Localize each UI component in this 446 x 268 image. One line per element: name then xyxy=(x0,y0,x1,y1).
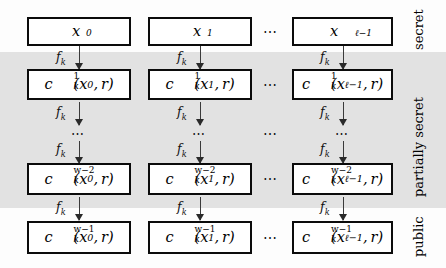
arrow-col-2-top-to-c1 xyxy=(343,46,344,69)
arrow-label-col-2-top-to-c1: fk xyxy=(320,51,330,64)
box-row-cw2-col-0: cw−2kw−2 (x0, r) xyxy=(27,163,131,195)
side-label-partially-secret: partially secret xyxy=(412,97,425,197)
arrow-label-col-0-top-to-c1: fk xyxy=(56,51,66,64)
column-ellipsis-row-cw1: ⋯ xyxy=(263,231,278,245)
box-row-c1-col-0: c1kw−2 (x0, r) xyxy=(27,69,131,100)
arrow-label-col-1-top-to-c1: fk xyxy=(177,51,187,64)
box-row-cw1-col-1: cw−1kw−1 (x1, r) xyxy=(148,221,252,254)
box-row-cw2-col-2: cw−2kw−2 (xℓ−1, r) xyxy=(292,163,393,195)
vertical-ellipsis-col-0: ⋯ xyxy=(71,127,85,140)
formula-x-l-1: xℓ−1ℓ−1 xyxy=(330,24,355,39)
arrow-col-2-c1-to-dots xyxy=(343,102,344,125)
side-label-secret: secret xyxy=(412,9,425,50)
column-ellipsis-row-dots: ⋯ xyxy=(263,127,278,141)
formula-ckw1-xl1: cw−1kw−1 xyxy=(302,230,331,245)
arrow-label-col-2-dots-to-cw2: fk xyxy=(320,143,330,156)
arrow-col-1-top-to-c1 xyxy=(200,46,201,69)
arrow-label-col-1-cw2-to-cw1: fk xyxy=(177,201,187,214)
box-row-top-col-0: x00 xyxy=(27,17,131,46)
column-ellipsis-row-c1: ⋯ xyxy=(263,78,278,92)
arrow-col-2-cw2-to-cw1 xyxy=(343,197,344,220)
column-ellipsis-row-top: ⋯ xyxy=(263,25,278,39)
side-label-public: public xyxy=(412,216,425,257)
arrow-label-col-0-cw2-to-cw1: fk xyxy=(56,201,66,214)
arrow-col-0-cw2-to-cw1 xyxy=(79,197,80,220)
box-row-cw1-col-0: cw−1kw−1 (x0, r) xyxy=(27,221,131,254)
box-row-cw2-col-1: cw−2kw−2 (x1, r) xyxy=(148,163,252,195)
formula-ckw2-xl1: cw−2kw−2 xyxy=(302,172,331,187)
arrow-col-1-c1-to-dots xyxy=(200,102,201,125)
arrow-label-col-0-dots-to-cw2: fk xyxy=(56,143,66,156)
figure-canvas: x00 x11 ⋯ xℓ−1ℓ−1 fk fk fk c1kw−2 (x0, r… xyxy=(0,0,446,268)
arrow-col-0-dots-to-cw2 xyxy=(79,141,80,163)
formula-x-1: x11 xyxy=(193,24,207,39)
arrow-label-col-1-c1-to-dots: fk xyxy=(177,106,187,119)
arrow-col-0-top-to-c1 xyxy=(79,46,80,69)
vertical-ellipsis-col-1: ⋯ xyxy=(192,127,206,140)
vertical-ellipsis-col-2: ⋯ xyxy=(335,127,349,140)
formula-ckw1-x0: cw−1kw−1 xyxy=(44,230,73,245)
arrow-col-0-c1-to-dots xyxy=(79,102,80,125)
formula-ck1-x0: c1kw−2 xyxy=(44,77,73,92)
arrow-label-col-1-dots-to-cw2: fk xyxy=(177,143,187,156)
formula-ckw2-x0: cw−2kw−2 xyxy=(44,172,73,187)
arrow-col-2-dots-to-cw2 xyxy=(343,141,344,163)
arrow-label-col-2-c1-to-dots: fk xyxy=(320,106,330,119)
formula-ckw2-x1: cw−2kw−2 xyxy=(165,172,194,187)
box-row-c1-col-2: c1kw−2 (xℓ−1, r) xyxy=(292,69,393,100)
arrow-label-col-0-c1-to-dots: fk xyxy=(56,106,66,119)
arrow-label-col-2-cw2-to-cw1: fk xyxy=(320,201,330,214)
arrow-col-1-dots-to-cw2 xyxy=(200,141,201,163)
box-row-top-col-1: x11 xyxy=(148,17,252,46)
formula-ck1-x1: c1kw−2 xyxy=(165,77,194,92)
formula-x-0: x00 xyxy=(72,24,86,39)
box-row-top-col-2: xℓ−1ℓ−1 xyxy=(292,17,393,46)
formula-ckw1-x1: cw−1kw−1 xyxy=(165,230,194,245)
formula-ck1-xl1: c1kw−2 xyxy=(302,77,331,92)
column-ellipsis-row-cw2: ⋯ xyxy=(263,172,278,186)
arrow-col-1-cw2-to-cw1 xyxy=(200,197,201,220)
box-row-cw1-col-2: cw−1kw−1 (xℓ−1, r) xyxy=(292,221,393,254)
box-row-c1-col-1: c1kw−2 (x1, r) xyxy=(148,69,252,100)
